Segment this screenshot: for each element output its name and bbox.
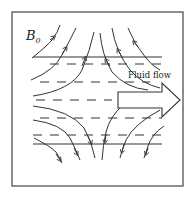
- field-label: B0: [25, 28, 41, 45]
- field-lines-upper: [31, 25, 160, 96]
- field-lines-lower: [33, 104, 164, 163]
- magnetic-field-diagram: B0 Fluid flow: [0, 0, 194, 197]
- fluid-flow-arrow: [118, 83, 180, 117]
- fluid-flow-label: Fluid flow: [128, 70, 172, 80]
